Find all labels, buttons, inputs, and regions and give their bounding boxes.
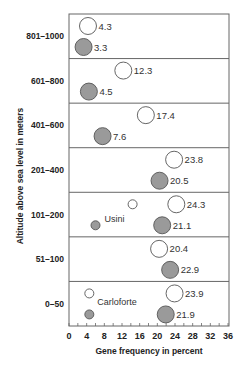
- row-label: 601–800: [31, 76, 64, 86]
- filled-circle-marker: [157, 306, 174, 323]
- open-circle-marker: [151, 240, 168, 257]
- x-axis-tick-labels: 04812162024283236: [66, 331, 233, 341]
- open-circle-marker: [79, 18, 96, 35]
- filled-circle-marker: [75, 39, 92, 56]
- open-value-label: 23.8: [185, 154, 204, 165]
- row-0-50: 0–5023.921.9: [45, 281, 229, 323]
- filled-circle-marker: [151, 172, 168, 189]
- filled-value-label: 22.9: [181, 264, 200, 275]
- filled-circle-marker: [80, 83, 97, 100]
- open-value-label: 24.3: [187, 199, 206, 210]
- x-tick-label: 36: [223, 331, 233, 341]
- x-tick-label: 28: [188, 331, 198, 341]
- small-filled-circle: [85, 310, 94, 319]
- open-value-label: 12.3: [134, 65, 153, 76]
- filled-value-label: 21.1: [173, 220, 192, 231]
- open-value-label: 23.9: [185, 288, 204, 299]
- open-value-label: 4.3: [98, 21, 111, 32]
- row-401-600: 401–60017.47.6: [31, 103, 229, 144]
- row-label: 101–200: [31, 210, 64, 220]
- row-label: 0–50: [45, 299, 64, 309]
- small-filled-circle: [91, 221, 100, 230]
- open-value-label: 17.4: [156, 110, 175, 121]
- open-circle-marker: [137, 107, 154, 124]
- y-axis-title: Altitude above sea level in meters: [15, 107, 25, 244]
- row-201-400: 201–40023.820.5: [31, 148, 229, 190]
- filled-value-label: 7.6: [113, 131, 126, 142]
- annotation-label: Carloforte: [97, 297, 137, 307]
- annotation-carloforte: Carloforte: [85, 289, 137, 319]
- plot-rows: 801–10004.33.3601–80012.34.5401–60017.47…: [26, 18, 229, 323]
- open-circle-marker: [168, 196, 185, 213]
- filled-circle-marker: [162, 261, 179, 278]
- x-tick-label: 4: [84, 331, 89, 341]
- filled-value-label: 3.3: [94, 42, 107, 53]
- x-tick-label: 0: [66, 331, 71, 341]
- x-axis-title: Gene frequency in percent: [95, 346, 202, 356]
- filled-circle-marker: [94, 128, 111, 145]
- row-601-800: 601–80012.34.5: [31, 59, 229, 100]
- filled-value-label: 21.9: [176, 309, 195, 320]
- x-tick-label: 32: [205, 331, 215, 341]
- x-tick-label: 8: [102, 331, 107, 341]
- x-tick-label: 24: [170, 331, 180, 341]
- annotation-label: Usini: [105, 214, 125, 224]
- small-open-circle: [128, 200, 137, 209]
- x-tick-label: 20: [152, 331, 162, 341]
- annotation-usini: Usini: [91, 200, 137, 230]
- filled-value-label: 20.5: [170, 175, 189, 186]
- row-label: 51–100: [36, 254, 65, 264]
- x-tick-label: 16: [135, 331, 145, 341]
- x-tick-label: 12: [117, 331, 127, 341]
- small-open-circle: [85, 289, 94, 298]
- filled-value-label: 4.5: [99, 86, 112, 97]
- gene-frequency-chart: Altitude above sea level in meters 801–1…: [0, 0, 246, 366]
- open-value-label: 20.4: [170, 243, 189, 254]
- row-101-200: 101–20024.321.1: [31, 192, 229, 234]
- open-circle-marker: [166, 151, 183, 168]
- open-circle-marker: [115, 62, 132, 79]
- row-label: 401–600: [31, 120, 64, 130]
- row-51-100: 51–10020.422.9: [36, 237, 229, 279]
- plot-frame: [69, 14, 229, 326]
- open-circle-marker: [166, 285, 183, 302]
- row-label: 201–400: [31, 165, 64, 175]
- filled-circle-marker: [154, 217, 171, 234]
- row-label: 801–1000: [26, 31, 64, 41]
